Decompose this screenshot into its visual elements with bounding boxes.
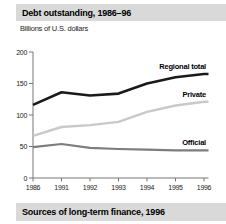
- line-chart: 0501001502001986199119921993199419951996…: [0, 0, 226, 224]
- y-tick-label: 100: [16, 112, 27, 119]
- x-tick-label: 1991: [54, 184, 69, 191]
- series-label-private: Private: [182, 90, 206, 99]
- series-label-regional-total: Regional total: [159, 62, 206, 71]
- y-tick-label: 50: [20, 143, 28, 150]
- x-tick-label: 1996: [197, 184, 212, 191]
- debt-chart-figure: Debt outstanding, 1986–96 Billions of U.…: [0, 0, 226, 224]
- x-tick-label: 1995: [168, 184, 183, 191]
- x-tick-label: 1993: [111, 184, 126, 191]
- x-tick-label: 1986: [26, 184, 41, 191]
- y-tick-label: 150: [16, 80, 27, 87]
- next-section-title: Sources of long-term finance, 1996: [16, 207, 165, 217]
- series-label-official: Official: [182, 138, 206, 147]
- x-tick-label: 1994: [140, 184, 155, 191]
- series-line-private: [33, 102, 209, 136]
- y-tick-label: 200: [16, 49, 27, 56]
- x-tick-label: 1992: [83, 184, 98, 191]
- next-section-title-bar: Sources of long-term finance, 1996: [16, 203, 226, 221]
- y-tick-label: 0: [23, 175, 27, 182]
